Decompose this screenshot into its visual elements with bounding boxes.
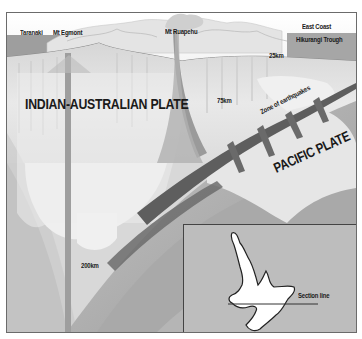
label-hikurangi-trough: Hikurangi Trough [296,36,343,43]
diagram-frame: Taranaki Mt Egmont Mt Ruapehu East Coast… [6,12,357,333]
label-taranaki: Taranaki [20,29,43,36]
north-island-outline-icon [184,225,356,333]
label-east-coast: East Coast [302,23,331,30]
label-depth-200km: 200km [81,262,99,269]
label-mt-egmont: Mt Egmont [53,29,82,36]
label-mt-ruapehu: Mt Ruapehu [165,28,197,35]
label-depth-75km: 75km [217,97,232,104]
label-indian-australian-plate: INDIAN-AUSTRALIAN PLATE [25,95,189,112]
label-depth-25km: 25km [269,52,284,59]
label-section-line: Section line [298,292,329,299]
inset-map: Section line [183,224,357,333]
